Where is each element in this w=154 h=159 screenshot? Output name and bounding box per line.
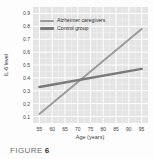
y-tick-label: 0.9 [14,10,30,16]
x-tick-label: 55 [37,126,43,132]
legend: Alzheimer caregivers Control group [40,18,105,31]
x-tick-label: 90 [126,126,132,132]
x-axis-title: Age (years) [76,134,104,140]
legend-item-caregivers: Alzheimer caregivers [40,18,105,23]
y-tick-label: 0.1 [14,114,30,120]
x-tick-label: 60 [49,126,55,132]
control-line-swatch [40,27,54,30]
figure-caption: FIGURE6 [10,146,49,155]
y-tick-label: 0.7 [14,36,30,42]
x-tick-label: 75 [88,126,94,132]
x-tick-label: 80 [100,126,106,132]
y-tick-label: 0.8 [14,23,30,29]
y-tick-label: 0.4 [14,75,30,81]
legend-label-caregivers: Alzheimer caregivers [57,18,105,23]
x-tick-label: 65 [62,126,68,132]
legend-item-control: Control group [40,26,105,31]
caregivers-line-swatch [40,20,54,22]
y-tick-label: 0.2 [14,101,30,107]
y-tick-label: 0.5 [14,62,30,68]
x-tick-label: 85 [113,126,119,132]
x-tick-label: 70 [75,126,81,132]
plot-area: Alzheimer caregivers Control group [33,7,148,123]
figure-caption-number: 6 [45,146,49,155]
figure-caption-label: FIGURE [10,146,43,155]
x-tick-label: 95 [139,126,145,132]
y-axis-title: IL-6 level [3,54,9,76]
y-tick-label: 0.3 [14,88,30,94]
figure-container: IL-6 level Alzheimer caregivers Control … [0,0,154,159]
y-tick-label: 0.6 [14,49,30,55]
legend-label-control: Control group [57,26,88,31]
